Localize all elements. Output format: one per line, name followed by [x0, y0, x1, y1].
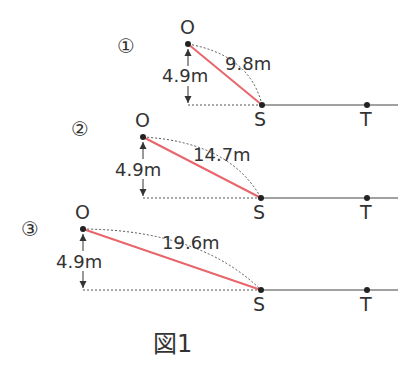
origin-label: O: [180, 16, 195, 38]
origin-label: O: [135, 109, 150, 131]
panel-2: ② O 4.9m 14.7m S T: [71, 109, 398, 223]
height-label: 4.9m: [56, 251, 102, 272]
point-o: [185, 41, 191, 47]
distance-label: 19.6m: [162, 232, 220, 253]
figure-caption: 図1: [153, 330, 192, 358]
point-o: [80, 226, 86, 232]
arrow-down-icon: [80, 281, 87, 288]
panel-1: ① O 4.9m 9.8m S T: [117, 16, 398, 130]
arrow-down-icon: [140, 189, 147, 196]
distance-label: 9.8m: [225, 53, 271, 74]
arrow-down-icon: [185, 96, 192, 103]
start-label: S: [253, 201, 265, 223]
target-label: T: [359, 108, 372, 130]
target-label: T: [359, 293, 372, 315]
height-label: 4.9m: [115, 159, 161, 180]
origin-label: O: [75, 201, 90, 223]
arrow-up-icon: [140, 142, 147, 149]
start-label: S: [253, 293, 265, 315]
point-o: [140, 134, 146, 140]
target-label: T: [359, 201, 372, 223]
distance-label: 14.7m: [193, 144, 251, 165]
panel-marker: ②: [71, 117, 89, 141]
height-label: 4.9m: [162, 65, 208, 86]
start-label: S: [254, 108, 266, 130]
panel-3: ③ O 4.9m 19.6m S T: [21, 201, 398, 315]
panel-marker: ③: [21, 217, 39, 241]
figure-1: ① O 4.9m 9.8m S T ② O 4.9m 14.7m: [0, 0, 415, 374]
arrow-up-icon: [80, 234, 87, 241]
panel-marker: ①: [117, 34, 135, 58]
arrow-up-icon: [185, 49, 192, 56]
